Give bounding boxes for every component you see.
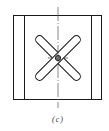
cross-slot-diagram bbox=[0, 0, 109, 131]
figure-caption: (c) bbox=[0, 115, 109, 124]
